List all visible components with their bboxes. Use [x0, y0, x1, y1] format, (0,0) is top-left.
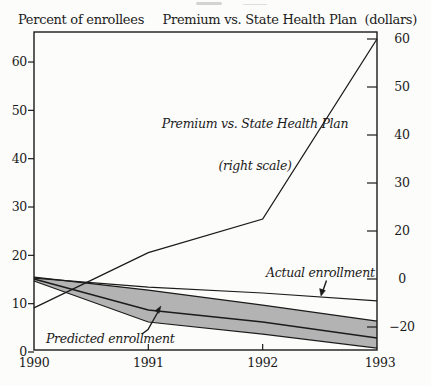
x-tick-label: 1993: [365, 355, 396, 370]
left-tick-label: 40: [12, 151, 28, 166]
right-tick-label: 40: [394, 127, 410, 142]
right-tick-label: 0: [398, 271, 406, 286]
x-tick-label: 1990: [19, 355, 50, 370]
right-tick-label: 30: [394, 175, 410, 190]
chart-figure: Percent of enrollees Premium vs. State H…: [0, 0, 431, 386]
right-tick-label: 50: [394, 79, 410, 94]
left-tick-label: 30: [12, 199, 28, 214]
left-tick-label: 60: [12, 54, 28, 69]
premium-series-label: Premium vs. State Health Plan (right sca…: [140, 89, 370, 201]
actual-annotation-arrow: [320, 281, 327, 297]
right-tick-label: 60: [394, 31, 410, 46]
x-tick-label: 1992: [247, 355, 278, 370]
actual-enrollment-label: Actual enrollment: [266, 265, 375, 280]
x-tick-label: 1991: [133, 355, 164, 370]
predicted-enrollment-label: Predicted enrollment: [46, 331, 174, 346]
right-tick-label: −20: [389, 319, 415, 334]
right-tick-label: 20: [394, 223, 410, 238]
premium-series-label-line2: (right scale): [140, 159, 370, 173]
left-tick-label: 50: [12, 103, 28, 118]
left-tick-label: 10: [12, 296, 28, 311]
premium-series-label-line1: Premium vs. State Health Plan: [140, 117, 370, 131]
left-tick-label: 20: [12, 248, 28, 263]
